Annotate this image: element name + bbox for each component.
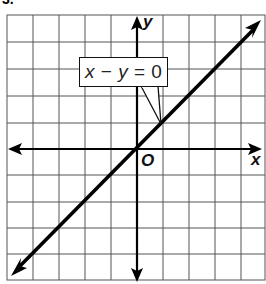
equation-var-x: x [85, 61, 95, 82]
equation-var-y: y [118, 61, 128, 82]
label-pointer [141, 86, 161, 124]
equation-rhs: = 0 [128, 61, 162, 82]
origin-label: O [141, 151, 154, 171]
equation-label-box: x − y = 0 [79, 57, 168, 87]
coordinate-graph: 3. [0, 0, 266, 284]
x-axis-label: x [251, 150, 260, 170]
equation-minus: − [95, 61, 118, 82]
y-axis-label: y [143, 12, 152, 32]
graph-canvas [0, 0, 266, 284]
